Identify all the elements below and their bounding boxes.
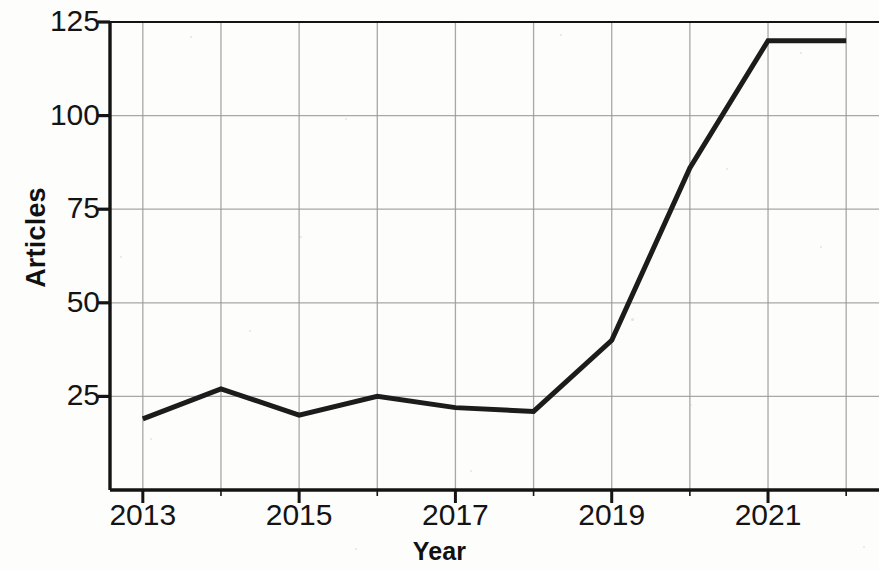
scan-speckle xyxy=(470,470,472,472)
y-tick-label: 100 xyxy=(0,100,100,130)
scan-speckle xyxy=(631,318,634,321)
plot-canvas xyxy=(0,0,879,571)
scan-speckle xyxy=(120,256,122,258)
x-tick-label: 2019 xyxy=(542,500,682,530)
scan-speckle xyxy=(820,246,822,248)
scan-speckle xyxy=(190,36,192,38)
scan-speckle xyxy=(345,118,347,120)
scan-speckle xyxy=(690,404,692,406)
y-tick-label: 125 xyxy=(0,6,100,36)
x-axis-title: Year xyxy=(0,537,879,566)
scan-speckle xyxy=(560,34,562,36)
data-series-line xyxy=(143,41,846,419)
scan-speckle xyxy=(355,548,357,550)
x-tick-label: 2017 xyxy=(385,500,525,530)
x-tick-label: 2021 xyxy=(698,500,838,530)
scan-speckle xyxy=(726,168,728,170)
scan-speckle xyxy=(150,438,152,440)
scan-speckle xyxy=(800,52,802,54)
x-tick-label: 2015 xyxy=(229,500,369,530)
scan-speckle xyxy=(863,546,865,548)
y-tick-label: 25 xyxy=(0,380,100,410)
chart-page: 255075100125 20132015201720192021 Articl… xyxy=(0,0,879,571)
line-chart: 255075100125 20132015201720192021 Articl… xyxy=(0,0,879,571)
y-axis-title: Articles xyxy=(21,178,52,298)
scan-speckle xyxy=(300,236,302,238)
scan-speckle xyxy=(249,330,251,332)
x-tick-label: 2013 xyxy=(73,500,213,530)
